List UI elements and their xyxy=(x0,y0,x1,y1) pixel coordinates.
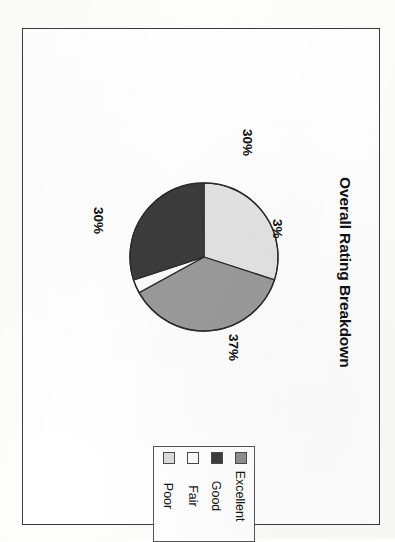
legend-swatch-excellent xyxy=(235,452,247,464)
pie-label-good: 37% xyxy=(226,334,241,361)
legend-label-good: Good xyxy=(210,481,224,512)
legend-swatch-fair xyxy=(187,452,199,464)
legend-item-list: ExcellentGoodFairPoor xyxy=(154,447,254,541)
legend-label-excellent: Excellent xyxy=(234,471,248,522)
pie-label-poor: 30% xyxy=(91,207,106,234)
legend-label-poor: Poor xyxy=(162,483,176,509)
legend-label-fair: Fair xyxy=(186,485,200,507)
pie-label-excellent: 30% xyxy=(240,129,255,156)
legend-swatch-poor xyxy=(163,452,175,464)
legend-item-excellent: Excellent xyxy=(232,452,249,503)
chart-legend: ExcellentGoodFairPoor xyxy=(153,446,255,542)
pie-chart xyxy=(129,182,279,332)
pie-chart-svg xyxy=(129,182,279,332)
legend-item-good: Good xyxy=(208,452,225,503)
legend-item-poor: Poor xyxy=(160,452,177,503)
pie-label-fair: 3% xyxy=(270,219,285,239)
legend-item-fair: Fair xyxy=(184,452,201,503)
document-page-frame: Overall Rating Breakdown 30% 3% 37% 30% … xyxy=(22,28,380,525)
page-title: Overall Rating Breakdown xyxy=(336,177,354,409)
legend-swatch-good xyxy=(211,452,223,464)
